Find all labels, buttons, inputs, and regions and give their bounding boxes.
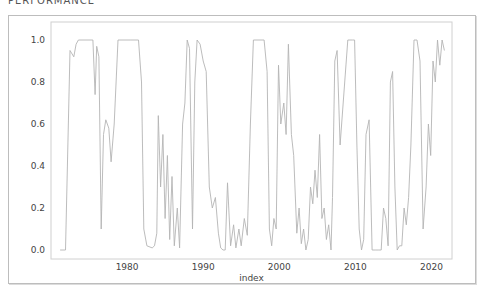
x-tick-label: 2000: [268, 262, 291, 272]
y-tick-label: 0.2: [31, 203, 45, 213]
y-tick-label: 0.4: [31, 161, 46, 171]
x-tick-label: 1990: [192, 262, 215, 272]
x-axis: 19801990200020102020: [116, 262, 444, 272]
line-chart: 0.00.20.40.60.81.0 19801990200020102020 …: [0, 0, 480, 293]
x-tick-label: 2010: [344, 262, 367, 272]
y-tick-label: 0.8: [31, 77, 46, 87]
x-tick-label: 2020: [420, 262, 443, 272]
x-axis-label: index: [239, 273, 264, 283]
plot-area: [51, 22, 452, 259]
data-line: [60, 40, 444, 250]
x-tick-label: 1980: [116, 262, 139, 272]
y-axis: 0.00.20.40.60.81.0: [31, 35, 46, 255]
y-tick-label: 0.6: [31, 119, 46, 129]
y-tick-label: 1.0: [31, 35, 46, 45]
y-tick-label: 0.0: [31, 245, 46, 255]
